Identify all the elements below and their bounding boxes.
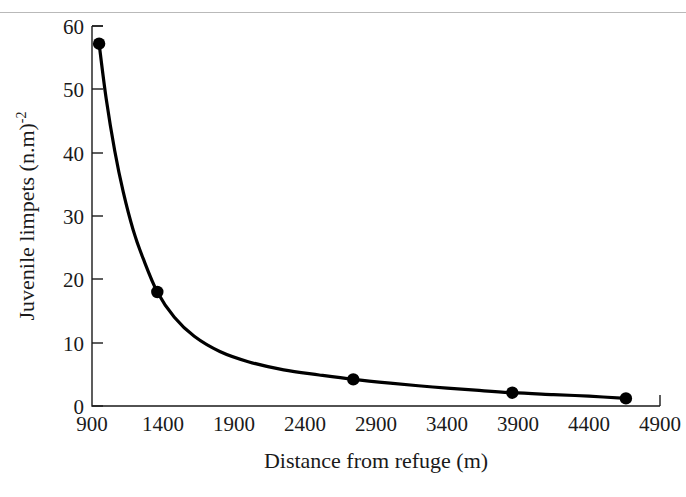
- y-tick-label: 50: [63, 78, 84, 102]
- x-tick-label: 4400: [568, 412, 610, 436]
- x-tick-label: 1900: [213, 412, 255, 436]
- x-axis-tick-labels: 900 1400 1900 2400 2900 3400 3900 4400 4…: [76, 412, 681, 436]
- data-curve: [99, 44, 626, 399]
- x-tick-label: 900: [76, 412, 108, 436]
- data-point-group: [93, 38, 632, 405]
- x-tick-label: 2900: [355, 412, 397, 436]
- y-axis-tick-labels: 60 50 40 30 20 10 0: [63, 15, 84, 419]
- y-tick-label: 20: [63, 268, 84, 292]
- x-tick-label: 4900: [639, 412, 681, 436]
- x-tick-label: 3900: [497, 412, 539, 436]
- axis-lines: [92, 26, 660, 406]
- y-axis-title: Juvenile limpets (n.m)-2: [14, 111, 39, 320]
- y-tick-label: 10: [63, 332, 84, 356]
- y-tick-label: 60: [63, 15, 84, 39]
- data-point: [506, 387, 518, 399]
- axis-spines: [92, 26, 660, 406]
- x-tick-label: 2400: [284, 412, 326, 436]
- y-axis-title-text: Juvenile limpets (n.m): [14, 123, 39, 320]
- limpet-decay-chart: 60 50 40 30 20 10 0 900 1400 1900 2400 2…: [0, 0, 686, 497]
- x-tick-label: 1400: [142, 412, 184, 436]
- y-tick-label: 40: [63, 142, 84, 166]
- data-point: [347, 373, 359, 385]
- y-axis-title-superscript: -2: [14, 111, 29, 123]
- y-axis-ticks: [92, 26, 103, 406]
- data-point: [620, 392, 632, 404]
- x-tick-label: 3400: [426, 412, 468, 436]
- x-axis-title: Distance from refuge (m): [264, 448, 488, 473]
- data-point: [151, 286, 163, 298]
- data-point: [93, 38, 105, 50]
- figure-container: 60 50 40 30 20 10 0 900 1400 1900 2400 2…: [0, 0, 686, 497]
- y-tick-label: 30: [63, 205, 84, 229]
